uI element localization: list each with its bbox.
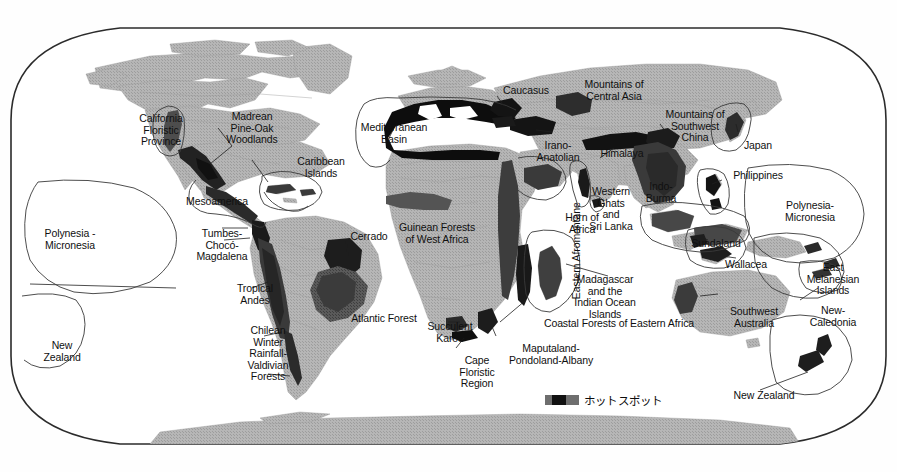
map-label-tropical-andes: Tropical Andes — [230, 283, 280, 306]
hotspot-swatch-icon — [545, 395, 579, 405]
map-label-southwest-australia: Southwest Australia — [723, 306, 785, 329]
map-label-mountains-of-central-asia: Mountains of Central Asia — [577, 79, 651, 102]
map-label-mountains-of-southwest-china: Mountains of Southwest China — [658, 109, 732, 144]
map-label-sundaland: Sundaland — [685, 238, 747, 250]
map-label-japan: Japan — [738, 140, 778, 152]
map-label-maputaland-pondoland-albany: Maputaland- Pondoland-Albany — [501, 343, 601, 366]
map-label-new-caledonia: New- Caledonia — [803, 305, 863, 328]
map-label-mesoamerica: Mesoamerica — [180, 196, 254, 208]
map-legend: ホットスポット — [545, 392, 662, 408]
map-label-california-floristic-province: California Floristic Province — [130, 113, 192, 148]
map-label-himalaya: Himalaya — [595, 148, 649, 160]
map-label-philippines: Philippines — [726, 170, 790, 182]
map-label-polynesia-micronesia-east: Polynesia- Micronesia — [777, 200, 843, 223]
world-hotspots-map: California Floristic ProvinceMadrean Pin… — [0, 0, 897, 472]
map-label-east-melanesian-islands: East Melanesian Islands — [801, 262, 865, 297]
map-label-wallacea: Wallacea — [719, 259, 773, 271]
map-label-chilean-winter-rainfall-valdivian-forests: Chilean Winter Rainfall- Valdivian Fores… — [241, 325, 295, 383]
legend-label: ホットスポット — [584, 392, 662, 408]
map-label-horn-of-africa: Horn of Africa — [559, 212, 605, 235]
map-label-irano-anatolian: Irano- Anatolian — [531, 140, 585, 163]
map-label-cape-floristic-region: Cape Floristic Region — [454, 355, 500, 390]
map-label-new-zealand-west: New Zealand — [35, 340, 89, 363]
map-label-guinean-forests-of-west-africa: Guinean Forests of West Africa — [392, 222, 482, 245]
map-label-succulent-karoo: Succulent Karoo — [421, 321, 479, 344]
map-label-caucasus: Caucasus — [497, 85, 555, 97]
map-label-mediterranean-basin: Mediterranean Basin — [352, 122, 436, 145]
map-label-new-zealand-east: New Zealand — [726, 390, 802, 402]
map-label-polynesia-micronesia-west: Polynesia - Micronesia — [35, 228, 105, 251]
map-label-madrean-pine-oak-woodlands: Madrean Pine-Oak Woodlands — [216, 111, 288, 146]
map-label-indo-burma: Indo- Burma — [641, 181, 681, 204]
map-label-atlantic-forest: Atlantic Forest — [343, 313, 425, 325]
map-label-cerrado: Cerrado — [345, 231, 393, 243]
map-label-tumbes-choco-magdalena: Tumbes- Chocó- Magdalena — [189, 228, 255, 263]
map-label-madagascar-and-the-indian-ocean-islands: Madagascar and the Indian Ocean Islands — [567, 274, 643, 320]
map-label-caribbean-islands: Caribbean Islands — [290, 156, 352, 179]
map-label-coastal-forests-of-eastern-africa: Coastal Forests of Eastern Africa — [530, 318, 708, 330]
